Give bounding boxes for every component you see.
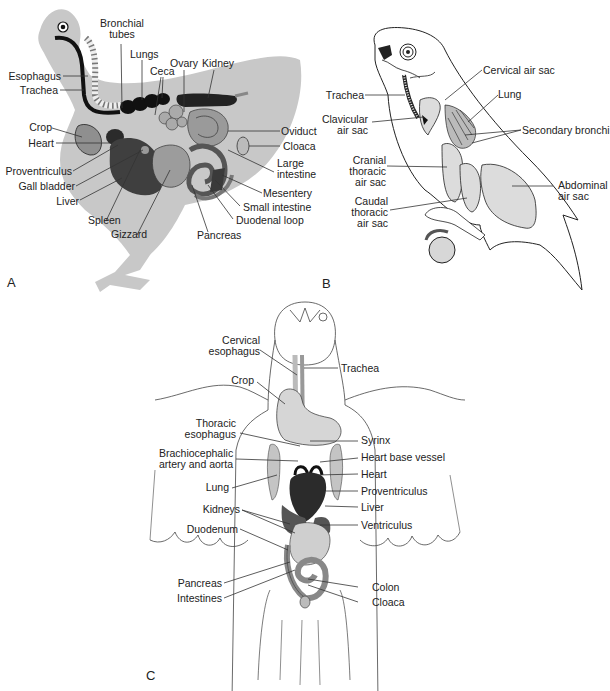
panel-letter-a: A [7, 275, 16, 290]
label-kidneys: Kidneys [180, 504, 240, 515]
label-text: esophagus [209, 345, 260, 357]
label-proventriculus: Proventriculus [0, 166, 72, 177]
label-ceca: Ceca [150, 66, 175, 77]
panel-c: Cervicalesophagus Trachea Crop Thoracice… [140, 300, 470, 691]
label-cranial-thoracic-air-sac: Cranialthoracicair sac [320, 155, 386, 188]
label-small-intestine: Small intestine [243, 202, 311, 213]
chicken-lateral-illustration [0, 0, 310, 300]
panel-letter-c: C [146, 668, 155, 683]
label-trachea: Trachea [0, 85, 58, 96]
label-oviduct: Oviduct [281, 126, 317, 137]
label-lung: Lung [180, 482, 229, 493]
label-caudal-thoracic-air-sac: Caudalthoracicair sac [320, 196, 388, 229]
label-heart-base-vessel: Heart base vessel [361, 452, 445, 463]
label-spleen: Spleen [88, 215, 121, 226]
label-cloaca: Cloaca [372, 597, 405, 608]
label-heart: Heart [0, 138, 54, 149]
label-crop: Crop [180, 375, 254, 386]
panel-b: Cervical air sac Trachea Lung Clavicular… [320, 0, 609, 300]
label-cervical-air-sac: Cervical air sac [483, 65, 555, 76]
panel-letter-b: B [322, 276, 331, 291]
label-liver: Liver [0, 196, 79, 207]
label-trachea: Trachea [341, 363, 379, 374]
label-duodenum: Duodenum [170, 524, 238, 535]
label-thoracic-esophagus: Thoracicesophagus [140, 418, 236, 440]
label-text: air sac [357, 217, 388, 229]
label-secondary-bronchi: Secondary bronchi [522, 125, 610, 136]
label-gizzard: Gizzard [111, 229, 147, 240]
label-abdominal-air-sac: Abdominalair sac [558, 180, 608, 202]
bird-air-sac-illustration [320, 0, 609, 300]
panel-a: Bronchialtubes Lungs Ovary Kidney Ceca E… [0, 0, 310, 300]
label-brachiocephalic-artery-and-aorta: Brachiocephalicartery and aorta [159, 448, 233, 470]
label-large-intestine: Largeintestine [277, 158, 316, 180]
label-esophagus: Esophagus [0, 71, 61, 82]
label-duodenal-loop: Duodenal loop [236, 215, 304, 226]
label-cloaca: Cloaca [283, 141, 316, 152]
label-heart: Heart [361, 469, 387, 480]
label-text: air sac [337, 124, 368, 136]
label-text: air sac [355, 176, 386, 188]
label-lungs: Lungs [130, 49, 159, 60]
label-liver: Liver [361, 502, 384, 513]
label-cervical-esophagus: Cervicalesophagus [180, 335, 260, 357]
label-text: air sac [558, 190, 589, 202]
label-clavicular-air-sac: Clavicularair sac [320, 114, 368, 136]
label-bronchial-tubes: Bronchialtubes [99, 18, 145, 40]
label-syrinx: Syrinx [361, 435, 390, 446]
label-lung: Lung [498, 89, 521, 100]
label-pancreas: Pancreas [197, 230, 241, 241]
label-text: artery and aorta [159, 458, 233, 470]
label-gall-bladder: Gall bladder [0, 181, 75, 192]
label-kidney: Kidney [202, 58, 234, 69]
label-ventriculus: Ventriculus [361, 520, 412, 531]
label-crop: Crop [0, 122, 52, 133]
label-mesentery: Mesentery [263, 188, 312, 199]
label-text: intestine [277, 168, 316, 180]
label-intestines: Intestines [160, 593, 222, 604]
label-text: esophagus [185, 428, 236, 440]
label-colon: Colon [372, 582, 399, 593]
label-proventriculus: Proventriculus [361, 486, 428, 497]
label-pancreas: Pancreas [160, 578, 222, 589]
label-text: tubes [109, 28, 135, 40]
label-trachea: Trachea [320, 90, 364, 101]
